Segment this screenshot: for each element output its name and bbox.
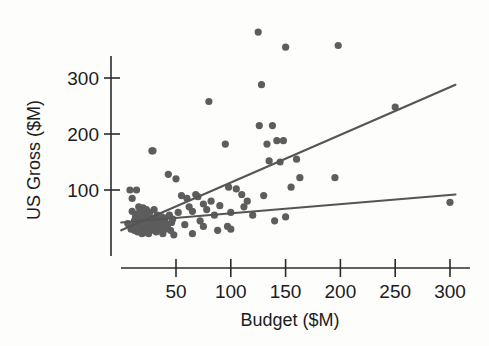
data-point: [181, 221, 188, 228]
data-point: [282, 44, 289, 51]
scatter-chart: 100200300 50100150200250300 Budget ($M) …: [0, 0, 489, 346]
data-point: [335, 42, 342, 49]
data-point: [203, 206, 210, 213]
y-tick-label-300: 300: [67, 68, 99, 89]
data-point: [331, 174, 338, 181]
x-tick-label-250: 250: [379, 281, 411, 302]
y-tick-label-200: 200: [67, 124, 99, 145]
data-point: [238, 191, 245, 198]
data-point: [175, 209, 182, 216]
data-point: [233, 185, 240, 192]
data-point: [149, 147, 156, 154]
data-point: [446, 199, 453, 206]
data-point: [172, 175, 179, 182]
data-point: [205, 98, 212, 105]
data-point: [133, 186, 140, 193]
data-point: [258, 81, 265, 88]
x-tick-label-150: 150: [270, 281, 302, 302]
y-axis-ticks: [104, 78, 120, 190]
x-axis-title: Budget ($M): [240, 310, 339, 330]
x-tick-label-100: 100: [215, 281, 247, 302]
data-point: [263, 140, 270, 147]
data-point: [282, 213, 289, 220]
chart-canvas: 100200300 50100150200250300 Budget ($M) …: [0, 0, 489, 346]
data-point: [214, 227, 221, 234]
data-point: [296, 174, 303, 181]
data-point: [189, 230, 196, 237]
regression-lines: [121, 85, 455, 231]
data-point: [129, 195, 136, 202]
data-point: [165, 171, 172, 178]
x-tick-label-200: 200: [325, 281, 357, 302]
data-point: [170, 231, 177, 238]
data-point: [260, 192, 267, 199]
data-point: [227, 226, 234, 233]
data-point: [271, 217, 278, 224]
data-point: [293, 156, 300, 163]
data-point: [189, 208, 196, 215]
data-point: [244, 198, 251, 205]
data-point: [200, 223, 207, 230]
x-tick-label-300: 300: [434, 281, 466, 302]
data-point: [256, 122, 263, 129]
data-point: [126, 186, 133, 193]
data-point: [222, 140, 229, 147]
x-tick-label-50: 50: [165, 281, 186, 302]
data-point: [287, 184, 294, 191]
data-point: [273, 137, 280, 144]
x-axis-tick-labels: 50100150200250300: [165, 281, 465, 302]
data-point: [255, 28, 262, 35]
data-point: [266, 157, 273, 164]
y-axis-title: US Gross ($M): [24, 100, 44, 220]
y-tick-label-100: 100: [67, 180, 99, 201]
data-point: [216, 202, 223, 209]
data-point: [269, 122, 276, 129]
data-point: [280, 137, 287, 144]
data-point: [207, 198, 214, 205]
y-axis-tick-labels: 100200300: [67, 68, 99, 201]
